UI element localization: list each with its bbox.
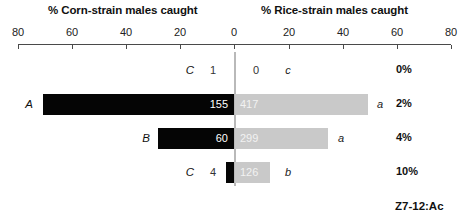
right-group-letter-3: b (285, 166, 291, 178)
x-tick-label-1: 60 (66, 26, 78, 38)
right-count-3: 126 (240, 166, 280, 178)
right-group-letter-0: c (285, 64, 291, 76)
dose-label-0: 0% (396, 63, 412, 75)
bar-row-1: A 155 417 a 2% (0, 88, 469, 122)
right-group-letter-1: a (377, 98, 383, 110)
x-tick-label-4: 0 (231, 26, 237, 38)
left-group-letter-0: C (186, 64, 194, 76)
chart-caption: Z7-12:Ac (395, 200, 444, 212)
left-count-2: 60 (178, 132, 228, 144)
left-group-letter-1: A (25, 98, 33, 110)
right-count-2: 299 (240, 132, 290, 144)
x-tick-label-6: 40 (337, 26, 349, 38)
x-tick-label-7: 60 (391, 26, 403, 38)
right-axis-title: % Rice-strain males caught (261, 4, 408, 16)
right-count-1: 417 (240, 98, 290, 110)
right-count-0: 0 (253, 64, 259, 76)
x-tick-label-2: 40 (120, 26, 132, 38)
x-tick-mark-0 (18, 45, 19, 49)
x-tick-mark-2 (126, 45, 127, 49)
left-bar-3 (226, 162, 234, 183)
x-tick-mark-3 (180, 45, 181, 49)
left-count-3: 4 (210, 166, 216, 178)
left-count-0: 1 (210, 64, 216, 76)
left-axis-title: % Corn-strain males caught (48, 4, 198, 16)
dose-label-2: 4% (396, 131, 412, 143)
bar-row-0: C 1 0 c 0% (0, 54, 469, 88)
diverging-bar-chart: % Corn-strain males caught % Rice-strain… (0, 0, 469, 223)
x-tick-mark-4 (234, 45, 235, 49)
x-tick-label-3: 20 (174, 26, 186, 38)
x-axis: 80 60 40 20 0 20 40 60 80 (0, 26, 469, 52)
x-tick-mark-8 (451, 45, 452, 49)
right-group-letter-2: a (338, 132, 344, 144)
x-tick-label-0: 80 (12, 26, 24, 38)
dose-label-1: 2% (396, 97, 412, 109)
left-group-letter-3: C (186, 166, 194, 178)
x-tick-mark-7 (397, 45, 398, 49)
dose-label-3: 10% (396, 165, 418, 177)
plot-area: C 1 0 c 0% A 155 417 a 2% B 60 299 a 4% (0, 52, 469, 194)
bar-row-3: C 4 126 b 10% (0, 156, 469, 190)
x-tick-mark-1 (72, 45, 73, 49)
x-tick-mark-6 (343, 45, 344, 49)
left-count-1: 155 (178, 98, 228, 110)
x-tick-label-5: 20 (283, 26, 295, 38)
x-tick-label-8: 80 (445, 26, 457, 38)
left-group-letter-2: B (142, 132, 150, 144)
x-tick-mark-5 (289, 45, 290, 49)
bar-row-2: B 60 299 a 4% (0, 122, 469, 156)
